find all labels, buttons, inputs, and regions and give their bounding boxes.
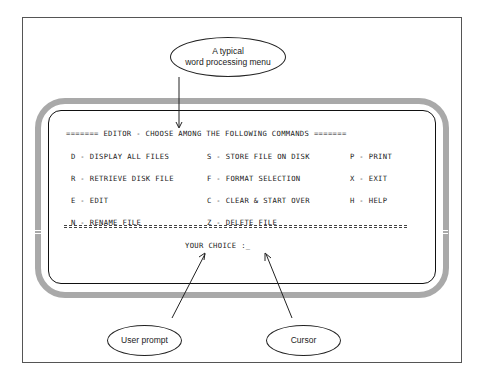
command-store-file: S - STORE FILE ON DISK [207,152,310,162]
menu-divider [64,225,407,228]
user-prompt-line: YOUR CHOICE :_ [185,241,250,251]
command-clear-start-over: C - CLEAR & START OVER [207,196,310,206]
command-edit: E - EDIT [71,196,108,206]
command-help: H - HELP [350,196,387,206]
user-prompt-callout: User prompt [107,325,182,356]
menu-header: ======= EDITOR - CHOOSE AMONG THE FOLLOW… [66,129,347,139]
top-callout-bubble: A typical word processing menu [170,37,286,77]
user-prompt-callout-label: User prompt [121,335,168,346]
command-display-all-files: D - DISPLAY ALL FILES [71,152,169,162]
command-exit: X - EXIT [350,174,387,184]
command-print: P - PRINT [350,152,392,162]
cursor-callout-label: Cursor [291,335,317,346]
cursor-callout: Cursor [266,325,341,356]
top-callout-line1: A typical [185,46,271,57]
top-callout-line2: word processing menu [185,57,271,68]
command-format-selection: F - FORMAT SELECTION [207,174,301,184]
command-retrieve-disk-file: R - RETRIEVE DISK FILE [71,174,174,184]
